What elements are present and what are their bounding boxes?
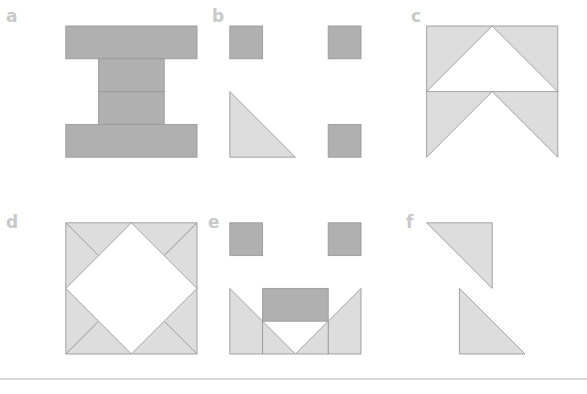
shape-b-square-mid-right <box>328 124 361 157</box>
shape-a-stem-upper <box>99 59 165 92</box>
shape-e-eye-right <box>328 223 361 256</box>
panel-label-b: b <box>212 6 224 26</box>
panel-label-c: c <box>411 6 421 26</box>
shape-a-stem-lower <box>99 92 165 125</box>
shape-e-mouth-bar <box>263 288 329 321</box>
panel-label-a: a <box>6 6 17 26</box>
figure-container: abcdef <box>0 0 587 394</box>
shape-a-bottom-bar <box>66 124 197 157</box>
panel-label-e: e <box>208 212 220 232</box>
panel-label-f: f <box>406 212 414 232</box>
panel-label-d: d <box>6 212 18 232</box>
grid-pattern-figure: abcdef <box>0 0 587 394</box>
shape-b-square-top-right <box>328 26 361 59</box>
shape-b-square-top-left <box>230 26 263 59</box>
shape-a-top-bar <box>66 26 197 59</box>
shape-e-eye-left <box>230 223 263 256</box>
